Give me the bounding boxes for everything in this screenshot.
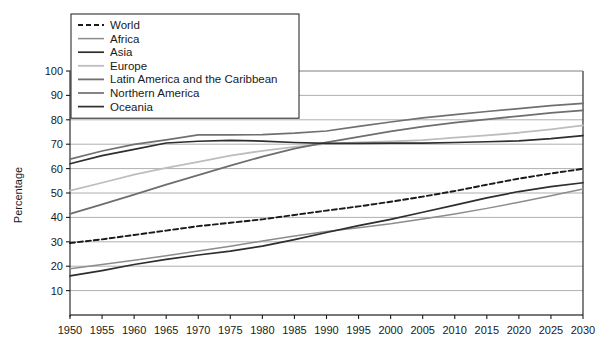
urbanization-line-chart: 102030405060708090100 195019551960196519… xyxy=(0,0,613,355)
y-tick-label: 10 xyxy=(51,285,63,297)
x-tick-label: 1990 xyxy=(314,324,338,336)
y-tick-label: 70 xyxy=(51,138,63,150)
legend-label: Africa xyxy=(110,33,140,45)
x-tick-label: 1970 xyxy=(186,324,210,336)
series-line xyxy=(70,136,583,164)
x-tick-label: 1955 xyxy=(90,324,114,336)
legend-label: Asia xyxy=(110,46,133,58)
y-tick-label: 60 xyxy=(51,163,63,175)
x-tick-label: 1980 xyxy=(250,324,274,336)
y-tick-label: 90 xyxy=(51,89,63,101)
series-line xyxy=(70,183,583,276)
chart-canvas: 102030405060708090100 195019551960196519… xyxy=(0,0,613,355)
legend-label: World xyxy=(110,19,140,31)
y-tick-label: 80 xyxy=(51,114,63,126)
series-lines xyxy=(70,103,583,276)
x-tick-label: 2005 xyxy=(410,324,434,336)
chart-legend: WorldAfricaAsiaEuropeLatin America and t… xyxy=(71,14,299,118)
x-tick-label: 2020 xyxy=(507,324,531,336)
x-tick-label: 2015 xyxy=(475,324,499,336)
legend-label: Europe xyxy=(110,60,147,72)
x-tick-label: 1985 xyxy=(282,324,306,336)
series-line xyxy=(70,110,583,214)
y-tick-label: 40 xyxy=(51,211,63,223)
x-tick-label: 2025 xyxy=(539,324,563,336)
y-tick-label: 20 xyxy=(51,260,63,272)
x-tick-label: 2030 xyxy=(571,324,595,336)
y-tick-label: 100 xyxy=(45,65,63,77)
legend-label: Oceania xyxy=(110,101,153,113)
x-tick-label: 1960 xyxy=(122,324,146,336)
x-tick-label: 1995 xyxy=(346,324,370,336)
x-tick-label: 2000 xyxy=(378,324,402,336)
x-tick-label: 2010 xyxy=(443,324,467,336)
legend-label: Northern America xyxy=(110,87,200,99)
y-axis: 102030405060708090100 xyxy=(45,65,70,317)
x-tick-label: 1975 xyxy=(218,324,242,336)
y-tick-label: 30 xyxy=(51,236,63,248)
x-tick-label: 1950 xyxy=(58,324,82,336)
legend-label: Latin America and the Caribbean xyxy=(110,73,278,85)
series-line xyxy=(70,189,583,269)
y-tick-label: 50 xyxy=(51,187,63,199)
x-tick-label: 1965 xyxy=(154,324,178,336)
y-axis-title: Percentage xyxy=(12,167,24,223)
